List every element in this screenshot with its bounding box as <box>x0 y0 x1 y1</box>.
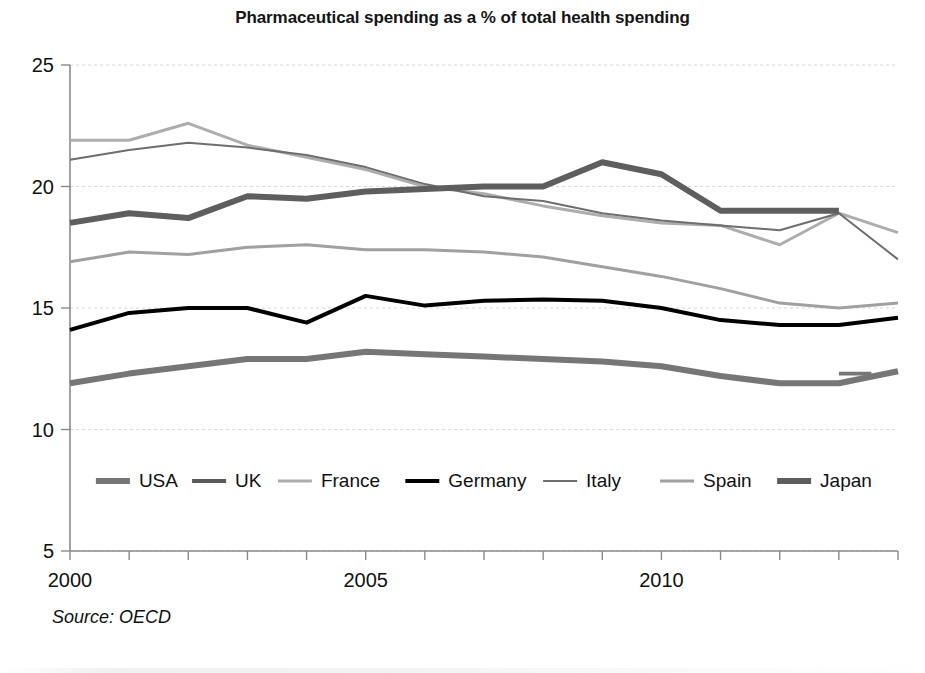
source-note: Source: OECD <box>52 607 171 628</box>
x-axis-tick-label: 2000 <box>48 569 93 591</box>
chart-legend: USAUKFranceGermanyItalySpainJapan <box>96 470 872 491</box>
legend-label: Japan <box>820 470 872 491</box>
x-axis-tick-labels: 200020052010 <box>48 569 684 591</box>
legend-label: UK <box>235 470 262 491</box>
series-line <box>70 245 898 308</box>
chart-container: Pharmaceutical spending as a % of total … <box>0 0 925 673</box>
chart-plot-area: 510152025 200020052010 USAUKFranceGerman… <box>0 0 925 600</box>
legend-label: Spain <box>703 470 752 491</box>
series-line <box>70 162 839 223</box>
y-axis-tick-label: 20 <box>32 176 54 198</box>
page-edge-artifact <box>0 668 925 673</box>
y-axis-tick-label: 10 <box>32 419 54 441</box>
y-axis-tick-labels: 510152025 <box>32 54 54 562</box>
legend-label: France <box>321 470 380 491</box>
x-axis-ticks <box>70 551 898 560</box>
x-axis-tick-label: 2005 <box>343 569 388 591</box>
legend-label: Italy <box>586 470 621 491</box>
series-line <box>70 352 898 384</box>
y-axis-tick-label: 15 <box>32 297 54 319</box>
y-axis-tick-label: 25 <box>32 54 54 76</box>
y-axis-ticks <box>61 65 70 551</box>
x-axis-tick-label: 2010 <box>639 569 684 591</box>
y-axis-tick-label: 5 <box>43 540 54 562</box>
legend-label: USA <box>139 470 178 491</box>
legend-label: Germany <box>448 470 527 491</box>
data-series-group <box>70 123 898 383</box>
